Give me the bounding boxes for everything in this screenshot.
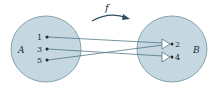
set-b-label: B: [192, 45, 200, 55]
arrow-head-icon: [122, 14, 130, 20]
element-3: 3: [37, 45, 42, 54]
point-2: [171, 43, 174, 46]
element-1: 1: [37, 33, 42, 42]
set-a-label: A: [17, 45, 25, 55]
function-label: f: [104, 2, 111, 13]
point-5: [46, 59, 49, 62]
point-4: [171, 56, 174, 59]
point-1: [46, 36, 49, 39]
element-2: 2: [175, 40, 180, 49]
element-4: 4: [175, 53, 180, 62]
element-5: 5: [37, 56, 42, 65]
function-mapping-diagram: A B f 1 3 5 2 4: [0, 0, 217, 91]
point-3: [46, 48, 49, 51]
function-arrow: [92, 14, 130, 21]
